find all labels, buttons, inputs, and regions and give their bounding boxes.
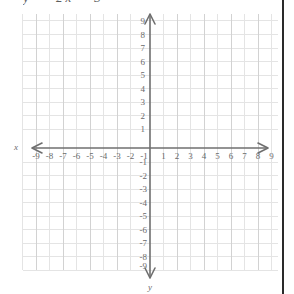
x-tick-label: -7: [59, 151, 67, 161]
y-tick-label: 1: [141, 124, 146, 134]
y-tick-label: -8: [140, 252, 148, 262]
coordinate-plane-svg: -9 -8 -7 -6 -5 -4 -3 -2 -1 1 2 3 4 5 6 7…: [0, 0, 294, 294]
y-tick-label: 4: [141, 84, 146, 94]
y-tick-label: -4: [140, 198, 148, 208]
y-tick-label: -7: [140, 238, 148, 248]
y-tick-label: 7: [141, 43, 146, 53]
y-tick-label: 3: [141, 97, 146, 107]
x-tick-label: 7: [242, 151, 247, 161]
x-tick-label: 3: [188, 151, 193, 161]
x-tick-label: -6: [73, 151, 81, 161]
x-tick-label: 4: [202, 151, 207, 161]
y-tick-label: 9: [141, 16, 146, 26]
page-edge-rule: [282, 0, 284, 294]
y-tick-label: -2: [140, 171, 148, 181]
y-tick-label: -3: [140, 184, 148, 194]
y-tick-label: -5: [140, 211, 148, 221]
y-tick-label: 5: [141, 70, 146, 80]
x-tick-label: -3: [113, 151, 121, 161]
y-tick-label: -6: [140, 225, 148, 235]
x-axis-tick-labels: -9 -8 -7 -6 -5 -4 -3 -2 -1 1 2 3 4 5 6 7…: [32, 151, 274, 161]
x-tick-label: -8: [46, 151, 54, 161]
y-tick-label: 8: [141, 30, 146, 40]
x-tick-label: 5: [215, 151, 220, 161]
x-tick-label: 1: [161, 151, 166, 161]
x-tick-label: -5: [86, 151, 94, 161]
x-tick-label: 8: [256, 151, 261, 161]
y-tick-label: 2: [141, 111, 146, 121]
x-tick-label: -2: [127, 151, 135, 161]
axes: [32, 14, 268, 278]
y-axis-tick-labels: 9 8 7 6 5 4 3 2 1 -1 -2 -3 -4 -5 -6 -7 -…: [140, 16, 148, 271]
y-tick-label: -9: [140, 261, 148, 271]
coordinate-plane-figure: y = 2x - 3: [0, 0, 294, 294]
x-axis-name: x: [13, 142, 18, 152]
x-tick-label: 9: [269, 151, 274, 161]
x-tick-label: -4: [100, 151, 108, 161]
x-tick-label: 6: [229, 151, 234, 161]
y-axis-name: y: [147, 282, 152, 292]
x-tick-label: -9: [32, 151, 40, 161]
x-tick-label: 2: [175, 151, 180, 161]
y-tick-label: 6: [141, 57, 146, 67]
y-tick-label: -1: [140, 157, 148, 167]
